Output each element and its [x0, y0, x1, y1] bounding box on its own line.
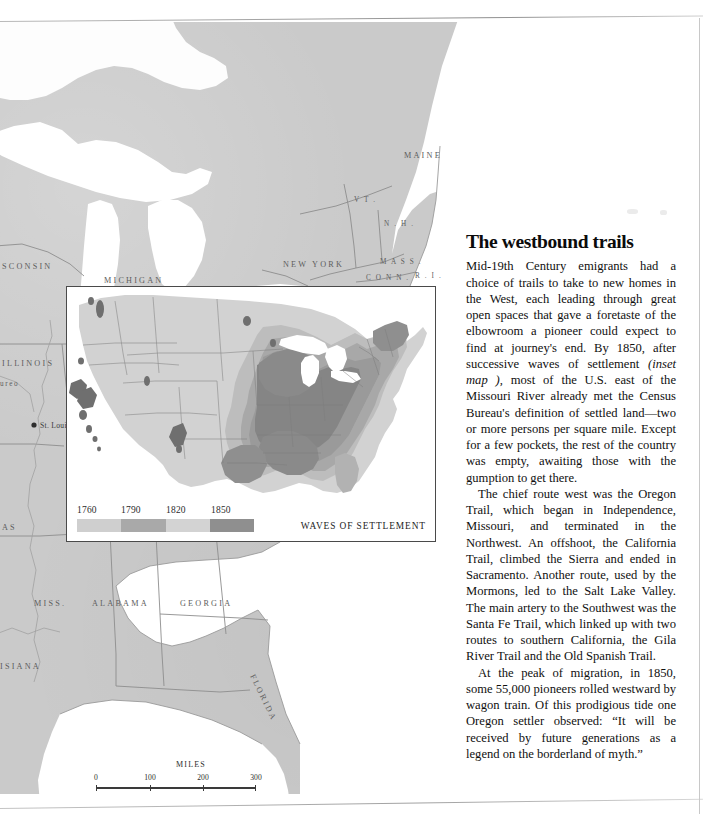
inset-map-graphics — [67, 287, 435, 499]
page-edge-top — [0, 0, 703, 22]
article-column: The westbound trails Mid-19th Century em… — [466, 232, 676, 762]
article-title: The westbound trails — [466, 232, 676, 252]
map-label-illinois: ILLINOIS — [2, 359, 54, 368]
map-label-conn: C O N N . — [366, 274, 410, 282]
scale-rule-tick-300 — [255, 785, 256, 791]
map-label-florida: FLORIDA — [248, 673, 278, 723]
map-label-arkansas: AS — [2, 523, 17, 532]
scale-bar-line — [96, 787, 256, 789]
scan-smudge-1 — [627, 209, 638, 214]
legend-swatch-1850 — [210, 519, 254, 532]
map-label-michigan: MICHIGAN — [104, 276, 163, 285]
article-paragraph-2: The chief route west was the Oregon Trai… — [466, 486, 676, 665]
legend-swatch-1790 — [121, 519, 165, 532]
scale-bar-title: MILES — [66, 760, 316, 769]
inset-title: WAVES OF SETTLEMENT — [301, 521, 426, 531]
inset-legend: 1760 1790 1820 1850 — [77, 505, 257, 532]
legend-year-labels: 1760 1790 1820 1850 — [77, 505, 257, 518]
map-label-louisiana: ISIANA — [0, 662, 41, 671]
para1-run1: Mid-19th Century emigrants had a choice … — [466, 259, 676, 371]
legend-gradient-bar — [77, 519, 254, 532]
legend-swatch-1820 — [166, 519, 210, 532]
page-edge-bottom — [0, 794, 703, 830]
inset-map — [67, 287, 435, 499]
city-marker-st-louis — [31, 422, 36, 427]
scale-rule-tick-0 — [96, 785, 97, 791]
scale-tick-100: 100 — [144, 773, 155, 782]
page-edge-bottom-line — [0, 799, 703, 809]
scale-bar-numbers: 0 100 200 300 — [96, 773, 316, 784]
article-paragraph-3: At the peak of migration, in 1850, some … — [466, 665, 676, 763]
scale-bar: MILES 0 100 200 300 — [96, 760, 316, 791]
legend-year-1850: 1850 — [211, 505, 231, 515]
para1-run3: most of the U.S. east of the Missouri Ri… — [466, 373, 676, 485]
map-label-wisconsin: SCONSIN — [2, 262, 52, 271]
map-label-georgia: GEORGIA — [180, 599, 232, 608]
map-label-vt: V T . — [354, 196, 377, 204]
legend-year-1820: 1820 — [166, 505, 186, 515]
page-edge-top-line — [0, 15, 703, 22]
scale-bar-rule — [96, 785, 316, 791]
map-label-new-york: NEW YORK — [283, 260, 344, 269]
map-label-alabama: ALABAMA — [92, 599, 149, 608]
map-label-mississippi: MISS. — [34, 599, 66, 608]
legend-year-1760: 1760 — [77, 505, 97, 515]
legend-year-1790: 1790 — [121, 505, 141, 515]
map-label-maine: MAINE — [404, 151, 442, 160]
map-label-mass: M A S S . — [380, 258, 422, 266]
legend-swatch-1760 — [77, 519, 121, 532]
inset-map-panel: 1760 1790 1820 1850 WAVES OF SETTLEMENT — [66, 286, 436, 542]
scale-tick-0: 0 — [94, 773, 98, 782]
scale-tick-300: 300 — [250, 773, 261, 782]
scale-tick-200: 200 — [197, 773, 208, 782]
map-label-ri: R . I . — [415, 272, 442, 280]
page-gutter-line — [699, 18, 700, 814]
map-label-partial-ureo: ureo — [0, 380, 19, 388]
map-label-nh: N . H . — [384, 220, 415, 228]
article-paragraph-1: Mid-19th Century emigrants had a choice … — [466, 258, 676, 486]
book-page: MAINE V T . N . H . M A S S . C O N N . … — [0, 0, 703, 830]
scale-rule-tick-200 — [203, 785, 204, 791]
scale-rule-tick-100 — [150, 785, 151, 791]
rivers — [0, 320, 60, 682]
scan-smudge-2 — [660, 210, 667, 215]
